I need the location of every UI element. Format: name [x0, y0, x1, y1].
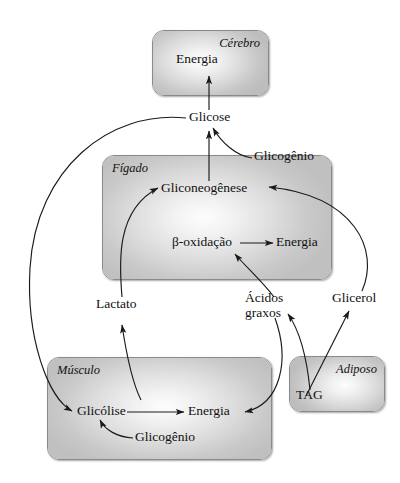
arrow-glicolise-to-lactato [122, 325, 141, 400]
arrow-tag-to-glicerol [306, 311, 349, 396]
node-acidos-graxos-line1: Ácidos [245, 290, 283, 305]
node-acidos-graxos: Ácidos graxos [245, 290, 283, 320]
arrow-tag-to-acidos-graxos [288, 314, 310, 390]
node-energia-musculo: Energia [188, 404, 230, 418]
node-glicose: Glicose [187, 110, 232, 124]
arrow-glicogenio-figado-to-glicose [213, 128, 252, 158]
arrow-lactato-to-gliconeogenese [120, 188, 158, 297]
node-gliconeogenese: Gliconeogênese [161, 181, 247, 195]
node-acidos-graxos-line2: graxos [245, 305, 281, 320]
node-energia-figado: Energia [276, 235, 318, 249]
metabolic-diagram-canvas: Cérebro Fígado Músculo Adiposo [0, 0, 400, 483]
node-glicogenio-figado: Glicogênio [254, 149, 314, 163]
node-glicerol: Glicerol [332, 291, 376, 305]
arrow-glicogenio-musculo-to-glicolise [100, 420, 133, 438]
node-lactato: Lactato [96, 297, 136, 311]
node-beta-oxidacao: β-oxidação [172, 235, 232, 249]
arrow-glicose-to-glicolise [30, 117, 186, 411]
node-glicolise: Glicólise [77, 404, 126, 418]
arrow-acidos-graxos-to-musculo-energia [245, 318, 282, 412]
node-glicogenio-musculo: Glicogênio [135, 430, 195, 444]
node-energia-cerebro: Energia [176, 52, 218, 66]
node-tag: TAG [296, 388, 323, 402]
